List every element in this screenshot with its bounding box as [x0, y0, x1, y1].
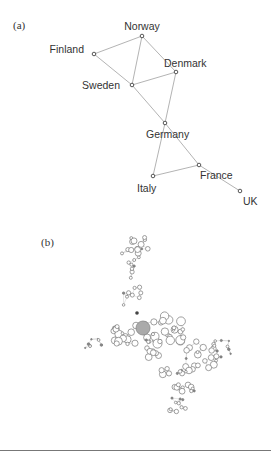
- network-node: [181, 328, 185, 332]
- network-node: [121, 252, 124, 255]
- network-node: [185, 358, 187, 360]
- network-node: [130, 293, 134, 297]
- network-node: [133, 265, 135, 267]
- network-node: [196, 351, 199, 354]
- network-node: [147, 340, 150, 343]
- network-node: [151, 319, 157, 325]
- network-node: [150, 350, 156, 356]
- network-node: [220, 356, 222, 358]
- network-node: [200, 344, 206, 350]
- network-node: [129, 247, 134, 252]
- network-node: [131, 238, 137, 244]
- network-node: [171, 397, 173, 399]
- network-node: [135, 247, 141, 253]
- network-node: [176, 383, 180, 387]
- network-node: [180, 406, 183, 409]
- network-node: [100, 344, 103, 347]
- network-node: [122, 304, 125, 307]
- network-node: [177, 402, 180, 405]
- network-node: [130, 267, 133, 270]
- network-node: [181, 335, 186, 340]
- network-node: [172, 326, 176, 330]
- network-node: [126, 295, 129, 298]
- network-node: [220, 339, 222, 341]
- network-node: [228, 340, 229, 341]
- network-node: [130, 263, 133, 266]
- network-node: [166, 336, 174, 344]
- network-node: [196, 363, 201, 368]
- dark-node: [135, 311, 139, 315]
- network-node: [194, 339, 199, 344]
- network-node: [228, 348, 231, 351]
- network-node: [151, 333, 154, 336]
- network-node: [115, 325, 119, 329]
- network-node: [160, 317, 167, 324]
- network-node: [97, 339, 100, 342]
- network-node: [169, 408, 172, 411]
- network-node: [165, 367, 169, 371]
- network-node: [138, 241, 144, 247]
- network-node: [184, 407, 188, 411]
- network-node: [128, 329, 135, 336]
- network-node: [206, 365, 212, 371]
- network-node: [185, 370, 188, 373]
- network-node: [226, 345, 229, 348]
- network-node: [141, 248, 143, 250]
- network-node: [209, 348, 214, 353]
- network-node: [190, 389, 193, 392]
- network-node: [166, 371, 171, 376]
- network-node: [216, 350, 218, 352]
- network-node: [179, 398, 181, 400]
- network-node: [177, 317, 186, 326]
- network-node: [91, 339, 93, 341]
- network-node: [143, 236, 147, 240]
- network-node: [139, 291, 143, 295]
- network-node: [159, 368, 164, 373]
- network-node: [193, 390, 195, 392]
- network-node: [121, 332, 124, 335]
- network-node: [213, 344, 216, 347]
- network-node: [208, 355, 214, 361]
- network-node: [133, 286, 136, 289]
- network-node: [184, 348, 190, 354]
- network-node: [178, 370, 182, 374]
- network-node: [127, 291, 131, 295]
- network-node: [114, 341, 119, 346]
- bottom-rule: [0, 450, 271, 451]
- network-node: [174, 409, 178, 413]
- network-node: [215, 359, 218, 362]
- network-node: [133, 259, 136, 262]
- network-node: [230, 353, 232, 355]
- network-node: [203, 359, 208, 364]
- network-node: [176, 372, 178, 374]
- network-node: [214, 340, 217, 343]
- network-node: [158, 339, 162, 343]
- network-node: [89, 345, 92, 348]
- network-node: [146, 247, 151, 252]
- network-node: [129, 276, 132, 279]
- network-node: [132, 340, 138, 346]
- network-node: [85, 347, 86, 348]
- network-node: [161, 328, 168, 335]
- network-node: [137, 296, 141, 300]
- network-node: [138, 256, 141, 259]
- network-node: [214, 354, 219, 359]
- network-node: [179, 388, 185, 394]
- network-node: [138, 285, 142, 289]
- hub-node: [136, 321, 150, 335]
- network-node: [122, 292, 124, 294]
- network-node: [182, 399, 184, 401]
- network-node: [174, 401, 177, 404]
- network-node: [126, 342, 129, 345]
- large-network-graph: [0, 0, 271, 454]
